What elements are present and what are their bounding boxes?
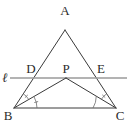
side-AC bbox=[65, 30, 116, 108]
vertex-label-A: A bbox=[60, 3, 70, 18]
geometry-figure: A B C D E P ℓ bbox=[0, 0, 129, 122]
geometry-canvas: A B C D E P ℓ bbox=[0, 0, 129, 122]
side-AB bbox=[14, 30, 65, 108]
vertex-label-D: D bbox=[26, 61, 35, 76]
segment-PC bbox=[66, 78, 116, 108]
vertex-label-C: C bbox=[116, 108, 125, 122]
vertex-label-P: P bbox=[62, 61, 69, 76]
vertex-label-B: B bbox=[4, 108, 13, 122]
vertex-label-E: E bbox=[97, 61, 105, 76]
line-label-ell: ℓ bbox=[2, 70, 8, 85]
segment-BP bbox=[14, 78, 66, 108]
